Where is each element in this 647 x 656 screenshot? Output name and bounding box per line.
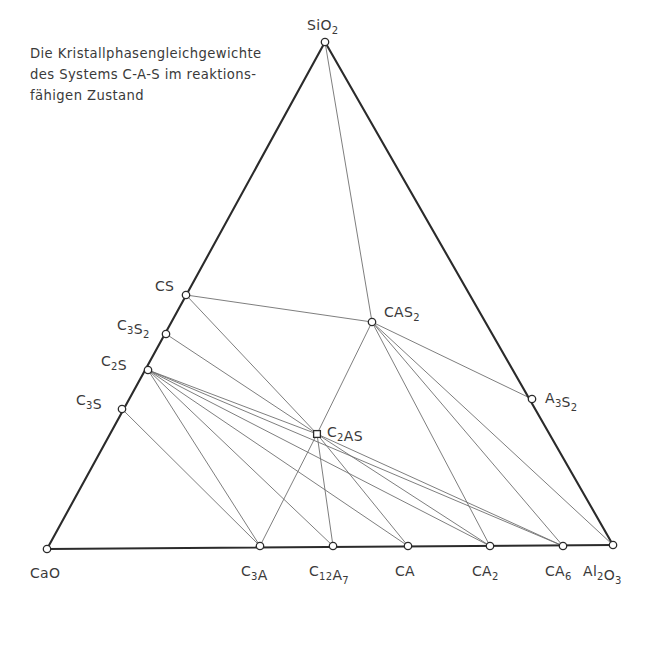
tie-line-CS-C2AS xyxy=(186,295,317,434)
triangle-edges-group xyxy=(47,42,613,549)
triangle-edge-Al2O3-SiO2 xyxy=(325,42,613,545)
phase-label-CaO: CaO xyxy=(30,565,60,581)
phase-markers-group xyxy=(43,38,616,552)
phase-label-C3S2: C3S2 xyxy=(117,317,150,340)
tie-line-C2AS-CA2 xyxy=(317,434,490,546)
phase-label-CS: CS xyxy=(155,278,174,294)
ternary-phase-diagram: Die Kristallphasengleichgewichte des Sys… xyxy=(0,0,647,656)
phase-label-CA6: CA6 xyxy=(545,563,572,582)
tie-line-C3S-C3A xyxy=(122,409,260,546)
phase-marker-SiO2 xyxy=(321,38,328,45)
phase-marker-CA xyxy=(404,542,411,549)
phase-marker-A3S2 xyxy=(528,395,535,402)
tie-line-C2S-CA2 xyxy=(148,370,490,546)
phase-marker-CaO xyxy=(43,545,50,552)
phase-marker-C2S xyxy=(144,366,151,373)
phase-label-CA2: CA2 xyxy=(472,563,499,582)
tie-line-C2S-CA6 xyxy=(148,370,563,546)
phase-label-C3S: C3S xyxy=(76,392,102,412)
phase-label-CAS2: CAS2 xyxy=(384,304,420,323)
phase-marker-C12A7 xyxy=(329,542,336,549)
tie-line-C2AS-C3A xyxy=(260,434,317,546)
phase-label-C3A: C3A xyxy=(241,563,268,583)
phase-marker-C2AS xyxy=(314,431,321,438)
phase-marker-CA2 xyxy=(486,542,493,549)
phase-label-C12A7: C12A7 xyxy=(309,563,349,586)
phase-marker-Al2O3 xyxy=(609,541,616,548)
tie-line-C2S-C2AS xyxy=(148,370,317,434)
tie-line-C2S-C3A xyxy=(148,370,260,546)
tie-line-CAS2-CA6 xyxy=(372,322,563,546)
phase-marker-C3S2 xyxy=(162,330,169,337)
tie-line-CS-CAS2 xyxy=(186,295,372,322)
phase-label-C2S: C2S xyxy=(101,353,127,373)
phase-marker-CS xyxy=(182,291,189,298)
phase-marker-C3A xyxy=(256,542,263,549)
tie-line-CAS2-C2AS xyxy=(317,322,372,434)
phase-diagram-canvas: SiO2CaOAl2O3CSC3S2C2SC3SC3AC12A7CACA2CA6… xyxy=(0,0,647,656)
phase-label-A3S2: A3S2 xyxy=(545,390,577,413)
tie-line-C3S2-C2AS xyxy=(166,334,317,434)
phase-label-SiO2: SiO2 xyxy=(307,17,338,36)
phase-marker-CAS2 xyxy=(368,318,375,325)
phase-marker-CA6 xyxy=(559,542,566,549)
tie-line-CAS2-Al2O3 xyxy=(372,322,613,545)
tie-line-CAS2-CA2 xyxy=(372,322,490,546)
phase-label-CA: CA xyxy=(395,563,415,579)
phase-labels-group: SiO2CaOAl2O3CSC3S2C2SC3SC3AC12A7CACA2CA6… xyxy=(30,17,622,586)
phase-marker-C3S xyxy=(118,405,125,412)
phase-label-Al2O3: Al2O3 xyxy=(583,563,622,586)
